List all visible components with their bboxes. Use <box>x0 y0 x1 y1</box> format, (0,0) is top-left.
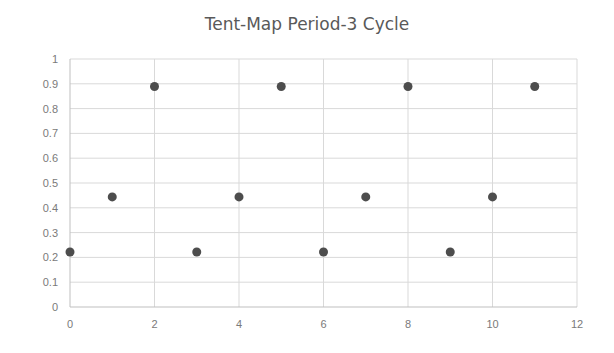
y-tick-label: 0.1 <box>43 276 58 288</box>
data-point <box>192 247 201 256</box>
data-point <box>235 192 244 201</box>
y-tick-label: 0.2 <box>43 251 58 263</box>
y-tick-label: 0.5 <box>43 177 58 189</box>
x-tick-label: 2 <box>151 318 157 330</box>
y-tick-label: 0.4 <box>43 202 58 214</box>
data-point <box>66 247 75 256</box>
data-point <box>319 247 328 256</box>
y-tick-label: 0.7 <box>43 127 58 139</box>
data-point <box>108 192 117 201</box>
data-point <box>446 247 455 256</box>
x-tick-label: 0 <box>67 318 73 330</box>
data-point <box>488 192 497 201</box>
y-tick-label: 0.9 <box>43 78 58 90</box>
data-point <box>150 82 159 91</box>
y-tick-label: 0.3 <box>43 227 58 239</box>
data-point <box>277 82 286 91</box>
x-tick-label: 8 <box>405 318 411 330</box>
y-tick-label: 1 <box>52 53 58 65</box>
data-point <box>404 82 413 91</box>
y-axis-tick-labels: 00.10.20.30.40.50.60.70.80.91 <box>43 53 58 313</box>
data-point <box>361 192 370 201</box>
data-point <box>530 82 539 91</box>
x-tick-label: 6 <box>320 318 326 330</box>
x-axis-tick-labels: 024681012 <box>67 318 583 330</box>
gridlines <box>70 59 577 307</box>
y-tick-label: 0.6 <box>43 152 58 164</box>
plot-area: 00.10.20.30.40.50.60.70.80.91 024681012 <box>0 0 614 353</box>
x-tick-label: 10 <box>486 318 498 330</box>
x-tick-label: 12 <box>571 318 583 330</box>
x-tick-label: 4 <box>236 318 242 330</box>
y-tick-label: 0.8 <box>43 103 58 115</box>
y-tick-label: 0 <box>52 301 58 313</box>
chart: Tent-Map Period-3 Cycle 00.10.20.30.40.5… <box>0 0 614 353</box>
